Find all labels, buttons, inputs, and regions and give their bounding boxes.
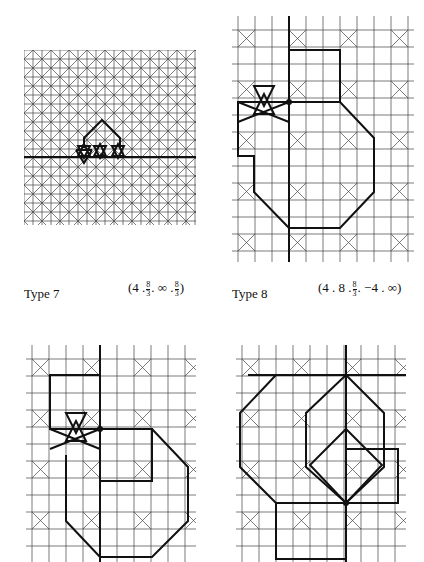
type8-notation: (4 . 8 .83. −4 . ∞): [318, 280, 401, 298]
notation-open: (4 .: [128, 280, 145, 295]
type7-tiling-diagram: [24, 50, 196, 225]
bottom-right-tiling-diagram: [236, 345, 406, 562]
fraction: 83: [146, 281, 150, 298]
type8-label: Type 8: [232, 286, 268, 302]
figure-bottom-right: [236, 345, 406, 562]
fraction: 83: [353, 281, 357, 298]
type7-notation: (4 .83. ∞ .83): [128, 280, 184, 298]
notation-mid: . ∞ .: [151, 280, 173, 295]
fraction: 83: [175, 281, 179, 298]
type8-tiling-diagram: [232, 16, 414, 262]
figure-bottom-left: [26, 345, 196, 562]
bottom-left-tiling-diagram: [26, 345, 196, 562]
figure-type7: [24, 50, 196, 225]
figure-type8: [232, 16, 414, 262]
type7-label: Type 7: [24, 286, 60, 302]
